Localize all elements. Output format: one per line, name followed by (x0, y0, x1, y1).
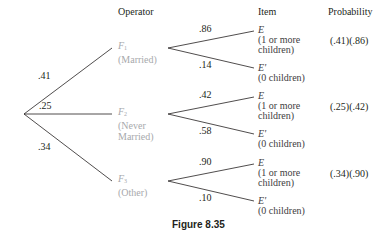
edge-prob-f2-eprime: .58 (199, 125, 212, 136)
item-f1-e: E (1 or more children) (258, 25, 300, 55)
header-operator: Operator (118, 6, 154, 17)
item-f1-eprime-line1: (0 children) (258, 73, 305, 83)
probability-f3: (.34)(.90) (330, 168, 368, 179)
item-f1-eprime: E' (0 children) (258, 63, 305, 83)
item-f3-eprime-line1: (0 children) (258, 206, 305, 216)
item-f3-e: E (1 or more children) (258, 158, 300, 188)
edge-prob-f1-eprime: .14 (199, 59, 212, 70)
edge-prob-f1: .41 (38, 70, 51, 81)
header-probability: Probability (328, 6, 372, 17)
header-item: Item (258, 6, 276, 17)
item-f2-e: E (1 or more children) (258, 91, 300, 121)
node-f1: F1 (Married) (118, 40, 157, 65)
node-f3: F3 (Other) (118, 173, 147, 198)
edge-prob-f3: .34 (38, 141, 51, 152)
node-f1-desc: (Married) (118, 54, 157, 65)
item-f1-e-line2: children) (258, 45, 300, 55)
probability-f2: (.25)(.42) (330, 101, 368, 112)
node-f2-subscript: 2 (124, 111, 127, 117)
node-f2-desc-line2: Married) (118, 131, 154, 142)
item-f2-eprime: E' (0 children) (258, 129, 305, 149)
node-f3-desc: (Other) (118, 187, 147, 198)
figure-caption: Figure 8.35 (172, 219, 225, 230)
item-f2-e-line2: children) (258, 111, 300, 121)
node-f2: F2 (Never Married) (118, 106, 154, 142)
edge-prob-f3-e: .90 (199, 156, 212, 167)
branch-f1 (24, 48, 112, 114)
node-f1-subscript: 1 (124, 45, 127, 51)
edge-prob-f2-e: .42 (199, 89, 212, 100)
item-f2-eprime-line1: (0 children) (258, 139, 305, 149)
node-f2-desc-line1: (Never (118, 120, 154, 131)
item-f3-eprime: E' (0 children) (258, 196, 305, 216)
probability-f1: (.41)(.86) (330, 35, 368, 46)
edge-prob-f1-e: .86 (199, 23, 212, 34)
edge-prob-f3-eprime: .10 (199, 192, 212, 203)
node-f3-subscript: 3 (124, 178, 127, 184)
edge-prob-f2: .25 (39, 100, 52, 111)
item-f3-e-line2: children) (258, 178, 300, 188)
